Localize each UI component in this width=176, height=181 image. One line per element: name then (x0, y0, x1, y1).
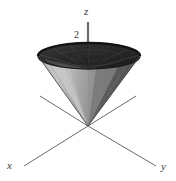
y-axis-label: y (161, 161, 166, 172)
z-axis-label: z (84, 6, 88, 17)
axis-lines-front (24, 126, 156, 166)
z-tick-label-2: 2 (74, 30, 79, 40)
cone-solid (38, 43, 140, 126)
x-axis-label: x (7, 160, 12, 171)
cone-surface-figure: z x y 2 (0, 0, 176, 181)
y-axis-near (88, 126, 156, 166)
x-axis-near (24, 126, 88, 166)
plot-canvas (0, 0, 176, 181)
